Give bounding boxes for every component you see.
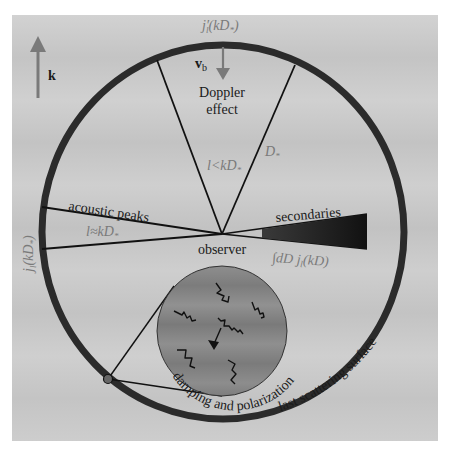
diagram-canvas: k vb j′l(kD*) Doppler effect l<kD* D* ac…	[0, 0, 449, 453]
doppler-condition-label: l<kD*	[207, 158, 242, 175]
doppler-title-line2: effect	[206, 102, 238, 117]
observer-label: observer	[198, 242, 247, 257]
wave-vector-label: k	[48, 68, 56, 83]
diagram-svg: k vb j′l(kD*) Doppler effect l<kD* D* ac…	[0, 0, 449, 453]
doppler-projection-label: j′l(kD*)	[200, 18, 239, 35]
doppler-title-line1: Doppler	[199, 85, 245, 100]
acoustic-projection-label: jl(kD*)	[21, 235, 38, 274]
scattering-point-marker	[104, 375, 113, 384]
